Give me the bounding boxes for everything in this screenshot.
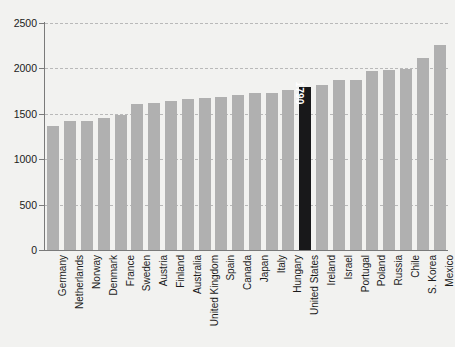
x-label-finland: Finland (175, 255, 186, 288)
bar-united-states: 1790 (299, 87, 311, 250)
bar-austria (148, 103, 160, 250)
y-tick-label-500: 500 (2, 199, 37, 211)
bar-poland (366, 71, 378, 250)
x-label-italy: Italy (276, 255, 287, 273)
x-label-hungary: Hungary (292, 255, 303, 293)
x-axis-line (44, 250, 448, 251)
bar-hungary (282, 90, 294, 250)
bar-ireland (316, 85, 328, 250)
bar-netherlands (64, 121, 76, 250)
x-label-russia: Russia (393, 255, 404, 286)
x-label-mexico: Mexico (444, 255, 455, 287)
x-label-denmark: Denmark (108, 255, 119, 296)
bar-united-kingdom (199, 98, 211, 250)
bar-japan (249, 93, 261, 250)
y-tick-label-0: 0 (2, 244, 37, 256)
bar-s-korea (417, 58, 429, 250)
bar-canada (232, 95, 244, 250)
x-label-portugal: Portugal (360, 255, 371, 292)
y-tick-mark-0 (39, 250, 45, 251)
bar-israel (333, 80, 345, 250)
x-label-s-korea: S. Korea (427, 255, 438, 294)
x-label-united-kingdom: United Kingdom (209, 255, 220, 326)
bar-value-label-highlight: 1790 (294, 82, 305, 105)
y-tick-label-2000: 2000 (2, 62, 37, 74)
bar-germany (47, 126, 59, 250)
bar-spain (215, 97, 227, 250)
x-label-japan: Japan (259, 255, 270, 282)
y-tick-label-2500: 2500 (2, 17, 37, 29)
x-label-australia: Australia (192, 255, 203, 294)
x-label-sweden: Sweden (141, 255, 152, 291)
x-label-germany: Germany (57, 255, 68, 296)
bar-mexico (434, 45, 446, 250)
bar-portugal (350, 80, 362, 250)
bar-france (115, 115, 127, 250)
x-label-austria: Austria (158, 255, 169, 286)
y-tick-label-1500: 1500 (2, 108, 37, 120)
x-label-norway: Norway (91, 255, 102, 289)
x-label-poland: Poland (376, 255, 387, 286)
bar-finland (165, 101, 177, 250)
y-tick-label-1000: 1000 (2, 153, 37, 165)
bar-norway (81, 121, 93, 250)
plot-area: 1790 (45, 23, 448, 250)
bar-russia (383, 70, 395, 250)
x-label-canada: Canada (242, 255, 253, 290)
x-label-spain: Spain (225, 255, 236, 281)
bar-australia (182, 99, 194, 250)
bar-chile (400, 69, 412, 250)
x-label-netherlands: Netherlands (74, 255, 85, 309)
x-label-united-states: United States (309, 255, 320, 315)
bar-italy (266, 93, 278, 250)
x-label-france: France (125, 255, 136, 286)
bar-sweden (131, 104, 143, 250)
x-label-chile: Chile (410, 255, 421, 278)
x-label-israel: Israel (343, 255, 354, 279)
bar-denmark (98, 118, 110, 250)
x-label-ireland: Ireland (326, 255, 337, 286)
